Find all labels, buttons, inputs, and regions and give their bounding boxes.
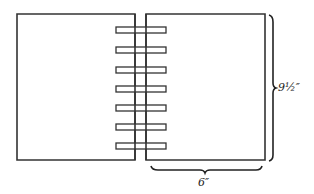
width-label: 6″	[198, 176, 209, 189]
binding-rings	[116, 27, 166, 149]
width-brace	[151, 166, 262, 173]
ring-1	[116, 27, 166, 33]
height-brace	[269, 15, 276, 161]
ring-7	[116, 143, 166, 149]
ring-3	[116, 67, 166, 73]
ring-5	[116, 105, 166, 111]
height-label: 9½″	[278, 81, 300, 94]
ring-4	[116, 86, 166, 92]
ring-6	[116, 124, 166, 130]
ring-2	[116, 47, 166, 53]
notebook-diagram	[0, 0, 314, 194]
